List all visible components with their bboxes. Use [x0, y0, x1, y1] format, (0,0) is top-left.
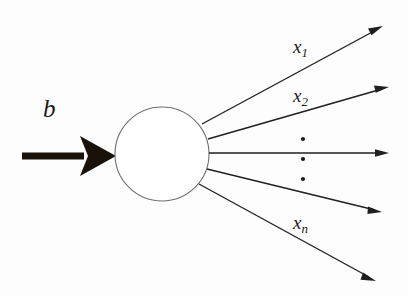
- output-label-x2: x2: [293, 86, 308, 105]
- input-label-b: b: [43, 96, 56, 121]
- central-node: [115, 107, 209, 201]
- input-label-b-text: b: [43, 95, 56, 122]
- input-arrow-shaft: [22, 153, 84, 160]
- ellipsis-dot: [301, 177, 305, 181]
- output-label-xn-subscript: n: [301, 221, 308, 236]
- ellipsis-dot: [301, 137, 305, 141]
- node-flow-diagram: b x1 x2 xn: [0, 0, 408, 296]
- output-label-x1: x1: [293, 37, 308, 56]
- ellipsis-dot: [301, 157, 305, 161]
- output-label-x2-subscript: 2: [301, 94, 308, 109]
- output-label-x1-subscript: 1: [301, 45, 308, 60]
- output-label-xn: xn: [293, 213, 308, 232]
- diagram-canvas: [0, 0, 408, 296]
